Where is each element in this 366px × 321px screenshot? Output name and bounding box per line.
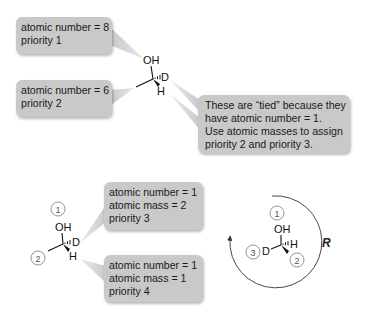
priority-circle-1-right: 1: [275, 209, 280, 219]
bl-oh-label: OH: [55, 221, 72, 233]
bottom-left-molecule: 1 OH D H 2: [31, 202, 80, 265]
bl-d-label: D: [72, 236, 80, 248]
bottom-right-molecule: 1 OH H D 3 2: [246, 206, 304, 267]
br-d-label: D: [262, 245, 270, 257]
tie-note-line-3: Use atomic masses to assign: [205, 125, 345, 138]
priority-circle-1: 1: [56, 205, 61, 215]
callout-carbon-line-1: atomic number = 6: [21, 84, 107, 97]
callout-tail-deuterium: [80, 205, 106, 243]
top-d-label: D: [161, 71, 169, 83]
tie-note-line-2: have atomic number = 1.: [205, 112, 345, 125]
callout-tie-note: These are “tied” because they have atomi…: [198, 95, 350, 153]
tie-note-line-4: priority 2 and priority 3.: [205, 138, 345, 151]
hydrogen-line-2: atomic mass = 1: [109, 272, 198, 285]
priority-circle-3: 3: [251, 248, 256, 258]
callout-tail-oxygen: [110, 27, 144, 59]
tie-note-line-1: These are “tied” because they: [205, 99, 345, 112]
bl-h-label: H: [69, 250, 77, 262]
br-oh-label: OH: [274, 223, 291, 235]
callout-tail-carbon: [110, 88, 134, 106]
br-h-label: H: [290, 238, 298, 250]
deuterium-line-1: atomic number = 1: [109, 186, 198, 199]
priority-circle-2: 2: [36, 254, 41, 264]
hydrogen-line-3: priority 4: [109, 285, 198, 298]
top-oh-label: OH: [143, 54, 160, 66]
callout-oxygen-line-2: priority 1: [21, 34, 107, 47]
deuterium-line-2: atomic mass = 2: [109, 199, 198, 212]
callout-oxygen-line-1: atomic number = 8: [21, 21, 107, 34]
priority-circle-2-right: 2: [295, 256, 300, 266]
callout-carbon-line-2: priority 2: [21, 97, 107, 110]
configuration-label: R: [322, 236, 331, 250]
deuterium-line-3: priority 3: [109, 212, 198, 225]
callout-hydrogen: atomic number = 1 atomic mass = 1 priori…: [104, 255, 203, 302]
callout-tail-hydrogen: [80, 259, 106, 283]
callout-carbon: atomic number = 6 priority 2: [16, 80, 112, 117]
top-h-label: H: [157, 85, 165, 97]
callout-deuterium: atomic number = 1 atomic mass = 2 priori…: [104, 182, 203, 230]
hydrogen-line-1: atomic number = 1: [109, 259, 198, 272]
top-molecule: OH D H: [136, 54, 169, 97]
callout-oxygen: atomic number = 8 priority 1: [16, 17, 112, 54]
